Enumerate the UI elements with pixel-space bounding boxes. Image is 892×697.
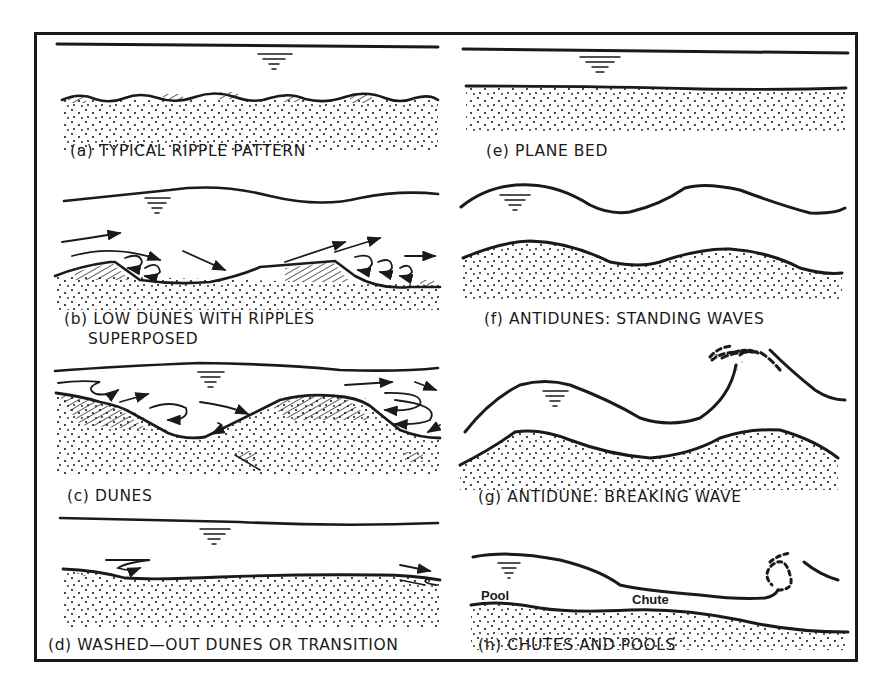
caption-panel-d: (d) WASHED—OUT DUNES OR TRANSITION xyxy=(48,636,398,654)
water-surface-line xyxy=(465,365,736,432)
caption-panel-h: (h) CHUTES AND POOLS xyxy=(478,636,676,654)
water-surface-line xyxy=(57,44,438,47)
caption-panel-f: (f) ANTIDUNES: STANDING WAVES xyxy=(484,310,764,328)
caption-panel-b-line2: SUPERPOSED xyxy=(88,330,198,348)
water-surface-line xyxy=(473,554,778,598)
caption-panel-e: (e) PLANE BED xyxy=(486,142,608,160)
water-surface-symbol xyxy=(543,391,568,406)
bedforms-drawing xyxy=(0,0,892,697)
water-surface-line xyxy=(461,185,845,213)
caption-panel-b-line1: (b) LOW DUNES WITH RIPPLES xyxy=(64,310,315,328)
annotation-chute: Chute xyxy=(632,592,669,607)
panel-f-drawing xyxy=(461,185,845,300)
water-surface-symbol xyxy=(580,57,620,72)
panel-b-drawing xyxy=(55,188,440,310)
water-surface-line xyxy=(463,49,848,53)
water-surface-line xyxy=(60,518,438,525)
water-surface-symbol xyxy=(258,54,292,69)
caption-panel-a: (a) TYPICAL RIPPLE PATTERN xyxy=(70,142,306,160)
water-surface-line xyxy=(64,188,438,203)
caption-panel-g: (g) ANTIDUNE: BREAKING WAVE xyxy=(478,488,742,506)
annotation-pool: Pool xyxy=(481,588,509,603)
water-surface-symbol xyxy=(500,195,530,210)
water-surface-symbol xyxy=(200,529,230,544)
water-surface-line xyxy=(55,363,438,371)
panel-e-drawing xyxy=(463,49,848,132)
panel-a-drawing xyxy=(57,44,438,150)
water-surface-symbol xyxy=(198,372,224,387)
panel-d-drawing xyxy=(60,518,440,628)
panel-g-drawing xyxy=(460,345,845,490)
breaking-wave-dashed xyxy=(767,553,791,590)
water-surface-symbol xyxy=(145,198,170,213)
water-surface-symbol xyxy=(498,563,520,578)
bedforms-figure: (a) TYPICAL RIPPLE PATTERN (e) PLANE BED… xyxy=(0,0,892,697)
caption-panel-c: (c) DUNES xyxy=(67,487,152,505)
panel-c-drawing xyxy=(55,363,440,475)
